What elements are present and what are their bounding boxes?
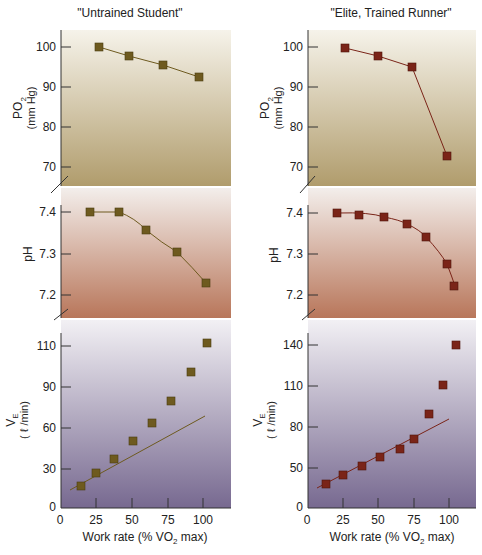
svg-text:80: 80 <box>43 120 57 134</box>
svg-text:0: 0 <box>49 500 56 514</box>
svg-text:7.4: 7.4 <box>286 206 303 220</box>
svg-text:90: 90 <box>290 80 304 94</box>
svg-text:(mm Hg): (mm Hg) <box>25 87 37 130</box>
svg-text:100: 100 <box>36 40 56 54</box>
svg-text:0: 0 <box>296 500 303 514</box>
svg-text:70: 70 <box>290 160 304 174</box>
panel-background <box>61 188 231 318</box>
svg-text:80: 80 <box>290 120 304 134</box>
svg-text:75: 75 <box>407 513 421 527</box>
panel-background <box>61 30 231 186</box>
svg-text:110: 110 <box>284 379 303 393</box>
figure: "Untrained Student" "Elite, Trained Runn… <box>0 0 482 555</box>
y-axis-label-ve: VE ( ℓ /min) <box>251 401 277 439</box>
chart-title-untrained: "Untrained Student" <box>77 6 182 20</box>
panel-elite-ve: 14011080500 0255075100 VE ( ℓ /min) Work… <box>251 320 476 546</box>
svg-text:25: 25 <box>89 513 103 527</box>
panel-elite-po2: 100908070 PO2 (mm Hg) <box>258 30 476 193</box>
svg-text:7.2: 7.2 <box>39 288 56 302</box>
svg-text:0: 0 <box>57 513 64 527</box>
chart-title-elite: "Elite, Trained Runner" <box>330 6 451 20</box>
y-axis-label-ph: pH <box>267 247 281 262</box>
x-axis-label: Work rate (% VO2 max) <box>83 530 208 546</box>
svg-text:0: 0 <box>304 513 311 527</box>
svg-text:50: 50 <box>290 461 304 475</box>
svg-text:(mm Hg): (mm Hg) <box>272 87 284 130</box>
svg-text:7.3: 7.3 <box>286 247 303 261</box>
svg-text:100: 100 <box>193 513 213 527</box>
svg-text:100: 100 <box>439 513 459 527</box>
svg-text:140: 140 <box>283 338 303 352</box>
svg-text:75: 75 <box>161 513 175 527</box>
panel-background <box>61 320 231 508</box>
y-axis-label-po2: PO2 (mm Hg) <box>258 87 284 130</box>
svg-text:90: 90 <box>43 80 57 94</box>
svg-text:7.3: 7.3 <box>39 247 56 261</box>
svg-text:( ℓ /min): ( ℓ /min) <box>265 401 277 439</box>
svg-text:50: 50 <box>125 513 139 527</box>
svg-text:100: 100 <box>283 40 303 54</box>
svg-text:7.2: 7.2 <box>286 288 303 302</box>
svg-text:50: 50 <box>371 513 385 527</box>
svg-text:7.4: 7.4 <box>39 205 56 219</box>
svg-text:25: 25 <box>336 513 350 527</box>
panel-background <box>308 30 476 186</box>
y-axis-label-ph: pH <box>21 246 35 261</box>
x-axis-label: Work rate (% VO2 max) <box>330 530 455 546</box>
svg-text:110: 110 <box>37 339 56 353</box>
svg-text:30: 30 <box>43 462 57 476</box>
svg-text:60: 60 <box>43 421 57 435</box>
svg-text:( ℓ /min): ( ℓ /min) <box>18 401 30 439</box>
panel-background <box>308 188 476 318</box>
svg-text:80: 80 <box>290 420 304 434</box>
y-axis-label-po2: PO2 (mm Hg) <box>11 87 37 130</box>
panel-untrained-ph: 7.47.37.2 pH <box>21 188 231 320</box>
svg-text:90: 90 <box>43 380 57 394</box>
x-tick-labels: 0255075100 <box>57 513 214 527</box>
y-axis-label-ve: VE ( ℓ /min) <box>4 401 30 439</box>
svg-text:70: 70 <box>43 160 57 174</box>
panel-elite-ph: 7.47.37.2 pH <box>267 188 476 320</box>
panel-untrained-ve: 1109060300 0255075100 VE ( ℓ /min) Work … <box>4 320 231 546</box>
panel-untrained-po2: 100908070 PO2 (mm Hg) <box>11 30 231 193</box>
x-tick-labels: 0255075100 <box>304 513 460 527</box>
